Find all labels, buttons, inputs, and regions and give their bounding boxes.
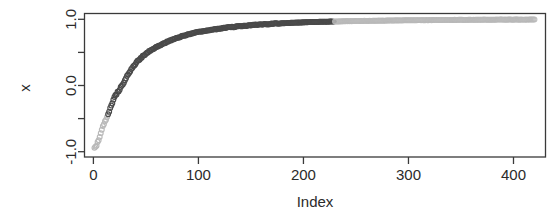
x-tick-label: 0 bbox=[89, 166, 97, 183]
x-axis-title: Index bbox=[297, 193, 334, 210]
x-tick-label: 200 bbox=[291, 166, 316, 183]
scatter-plot-canvas: 1.00.0-1.0 0100200300400 x Index bbox=[0, 0, 557, 221]
y-tick-label: -1.0 bbox=[62, 139, 79, 165]
y-tick-label: 0.0 bbox=[62, 75, 79, 96]
x-tick-label: 100 bbox=[186, 166, 211, 183]
plot-background bbox=[0, 0, 557, 221]
y-tick-label: 1.0 bbox=[62, 9, 79, 30]
y-axis-title: x bbox=[16, 84, 33, 92]
x-tick-label: 400 bbox=[501, 166, 526, 183]
x-tick-label: 300 bbox=[396, 166, 421, 183]
r-plot-figure: 1.00.0-1.0 0100200300400 x Index bbox=[0, 0, 557, 221]
